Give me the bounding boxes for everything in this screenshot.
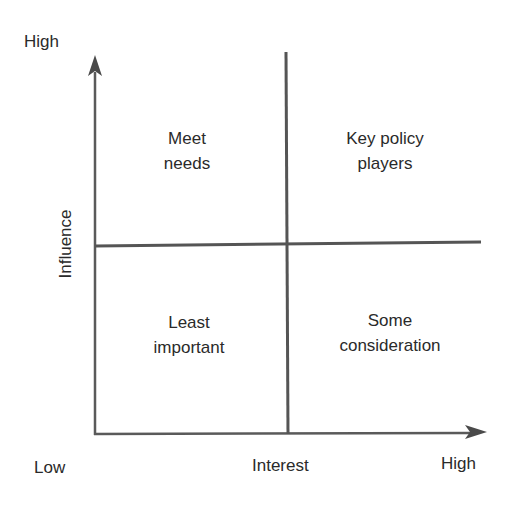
x-axis-title: Interest [252, 456, 309, 476]
quadrant-line: Meet [87, 126, 287, 151]
x-axis-line [94, 433, 470, 434]
y-axis-high-label: High [24, 32, 59, 52]
quadrant-line: Key policy [285, 126, 485, 151]
matrix-lines [0, 0, 512, 515]
quadrant-least-important: Least important [89, 310, 289, 360]
quadrant-key-policy-players: Key policy players [285, 126, 485, 176]
quadrant-line: needs [87, 151, 287, 176]
quadrant-line: consideration [290, 333, 490, 358]
quadrant-line: Some [290, 308, 490, 333]
quadrant-line: players [285, 151, 485, 176]
quadrant-line: important [89, 335, 289, 360]
horizontal-divider [95, 242, 481, 246]
quadrant-line: Least [89, 310, 289, 335]
y-axis-title: Influence [56, 210, 76, 279]
quadrant-some-consideration: Some consideration [290, 308, 490, 358]
x-axis-low-label: Low [34, 458, 65, 478]
x-axis-high-label: High [441, 454, 476, 474]
quadrant-meet-needs: Meet needs [87, 126, 287, 176]
